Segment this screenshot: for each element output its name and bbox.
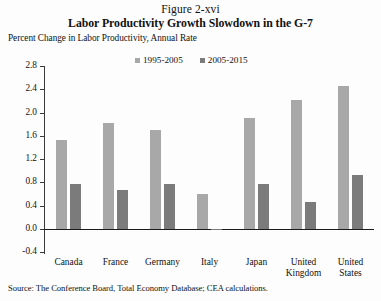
bar	[117, 190, 128, 229]
bar	[338, 86, 349, 229]
x-axis-label: UnitedStates	[327, 257, 374, 279]
bar-group	[186, 66, 233, 229]
x-axis-label-line: States	[327, 268, 374, 279]
x-axis-label-line: United	[327, 257, 374, 268]
x-axis-label: Canada	[45, 257, 92, 268]
source-note: Source: The Conference Board, Total Econ…	[8, 283, 268, 293]
y-axis-units-note: Percent Change in Labor Productivity, An…	[8, 33, 197, 44]
y-tick-label: -0.4	[22, 246, 37, 257]
bar	[56, 140, 67, 229]
y-tick-0-8: 0.8	[40, 182, 44, 183]
x-axis-label-line: Japan	[233, 257, 280, 268]
x-axis-label-line: Italy	[186, 257, 233, 268]
y-tick-label: 0.0	[25, 223, 37, 234]
x-axis-label-line: United	[280, 257, 327, 268]
y-tick-label: 1.6	[25, 130, 37, 141]
bar	[150, 130, 161, 229]
y-tick-2-8: 2.8	[40, 66, 44, 67]
x-axis-label-line: Germany	[139, 257, 186, 268]
y-tick-label: 2.8	[25, 60, 37, 71]
bar-group	[233, 66, 280, 229]
x-axis-label-line: Canada	[45, 257, 92, 268]
x-axis-label: UnitedKingdom	[280, 257, 327, 279]
bar-group	[45, 66, 92, 229]
x-axis-label: Italy	[186, 257, 233, 268]
bar-group	[92, 66, 139, 229]
legend-item-series1: 1995-2005	[135, 55, 183, 65]
legend-item-series2: 2005-2015	[200, 55, 248, 65]
y-tick-1-6: 1.6	[40, 136, 44, 137]
bar	[211, 229, 222, 230]
bar-group	[280, 66, 327, 229]
x-axis-label-line: France	[92, 257, 139, 268]
chart-legend: 1995-2005 2005-2015	[135, 55, 248, 65]
bar	[258, 184, 269, 229]
y-tick-label: 1.2	[25, 153, 37, 164]
x-axis-label: France	[92, 257, 139, 268]
y-tick-label: 0.4	[25, 200, 37, 211]
bar-group	[139, 66, 186, 229]
bar	[305, 202, 316, 229]
y-tick-label: 0.8	[25, 176, 37, 187]
plot-area: 2.82.42.01.61.20.80.40.0-0.4	[44, 66, 374, 254]
legend-swatch-icon-series2	[200, 58, 205, 63]
y-tick--0-4: -0.4	[40, 252, 44, 253]
y-tick-label: 2.4	[25, 83, 37, 94]
legend-swatch-icon-series1	[135, 58, 140, 63]
legend-label-series1: 1995-2005	[143, 55, 183, 65]
y-tick-1-2: 1.2	[40, 159, 44, 160]
bar	[103, 123, 114, 229]
legend-label-series2: 2005-2015	[208, 55, 248, 65]
y-tick-0-4: 0.4	[40, 206, 44, 207]
bar	[197, 194, 208, 229]
bar	[291, 100, 302, 229]
bar	[352, 175, 363, 229]
bar	[244, 118, 255, 229]
figure-title: Labor Productivity Growth Slowdown in th…	[0, 16, 381, 30]
bar	[70, 184, 81, 229]
x-axis-label-line: Kingdom	[280, 268, 327, 279]
bar	[164, 184, 175, 229]
figure-number: Figure 2-xvi	[0, 3, 381, 16]
y-tick-label: 2.0	[25, 107, 37, 118]
y-tick-2-0: 2.0	[40, 113, 44, 114]
x-axis-category-labels: CanadaFranceGermanyItalyJapanUnitedKingd…	[45, 257, 375, 283]
bar-group	[327, 66, 374, 229]
x-axis-label: Japan	[233, 257, 280, 268]
bars-layer	[45, 66, 374, 254]
x-axis-label: Germany	[139, 257, 186, 268]
y-tick-2-4: 2.4	[40, 89, 44, 90]
figure-container: Figure 2-xvi Labor Productivity Growth S…	[0, 0, 381, 301]
